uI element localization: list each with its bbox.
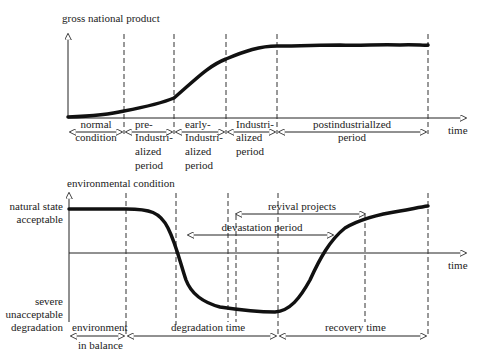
recovery-time-label: recovery time <box>325 321 386 333</box>
period-early-line1: early- <box>185 118 211 130</box>
period-ind-line2: alized <box>236 131 263 143</box>
period-pre-line3: alized <box>135 145 162 157</box>
env-axis-label: environmental condition <box>67 177 175 189</box>
balance-label-1: environment <box>72 321 128 333</box>
period-ind-line3: period <box>236 145 265 157</box>
y-top-label-1: natural state <box>10 200 64 212</box>
y-bottom-label-2: unacceptable <box>6 308 64 320</box>
environment-chart: environmental condition natural state ac… <box>6 177 468 351</box>
period-normal-line1: normal <box>80 118 111 130</box>
period-early-line3: alized <box>185 145 212 157</box>
period-early-line2: Industri- <box>185 131 223 143</box>
y-bottom-label-1: severe <box>35 295 63 307</box>
gnp-chart: gross national product time normal cond <box>62 12 468 171</box>
gnp-axis-label: gross national product <box>62 12 160 24</box>
diagram-canvas: gross national product time normal cond <box>0 0 480 359</box>
y-bottom-label-3: degradation <box>11 321 63 333</box>
env-time-label: time <box>448 259 468 271</box>
degradation-time-label: degradation time <box>171 321 245 333</box>
period-ind-line1: Industri- <box>236 118 274 130</box>
y-top-label-2: acceptable <box>17 213 64 225</box>
balance-label-2: in balance <box>78 339 123 351</box>
devastation-period-label: devastation period <box>222 221 303 233</box>
gnp-time-label: time <box>448 124 468 136</box>
revival-projects-label: revival projects <box>268 200 336 212</box>
period-pre-line1: pre- <box>135 118 153 130</box>
period-early-line4: period <box>185 159 214 171</box>
period-pre-line2: Industri- <box>135 131 173 143</box>
period-pre-line4: period <box>135 159 164 171</box>
period-post-line2: period <box>338 131 367 143</box>
gnp-curve <box>68 45 428 117</box>
period-post-line1: postindustriallzed <box>313 118 392 130</box>
gnp-period-labels: normal condition pre- Industri- alized p… <box>75 118 391 171</box>
period-normal-line2: condition <box>75 131 117 143</box>
